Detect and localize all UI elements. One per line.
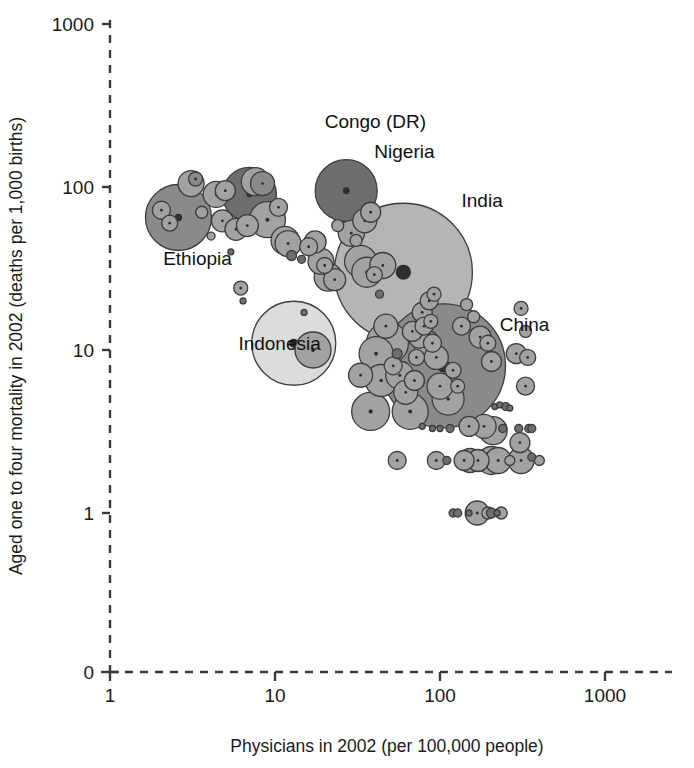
x-tick-label: 1000 [584, 685, 626, 706]
bubble-center-dot [439, 385, 442, 388]
data-bubble [196, 206, 208, 218]
bubble-center-dot [369, 211, 372, 214]
y-tick-label: 1 [83, 503, 94, 524]
data-bubble [392, 349, 402, 359]
bubble-center-dot [221, 219, 224, 222]
data-bubble [528, 453, 536, 461]
data-bubble [443, 456, 451, 464]
data-bubble [240, 298, 246, 304]
data-bubble [376, 290, 384, 298]
bubble-center-dot [287, 242, 290, 245]
bubble-center-dot [413, 379, 416, 382]
bubble-center-dot [463, 459, 466, 462]
bubble-center-dot [398, 374, 401, 377]
data-bubble [468, 311, 480, 323]
bubble-center-dot [497, 459, 500, 462]
bubble-center-dot [408, 409, 412, 413]
bubble-center-dot [456, 385, 459, 388]
bubble-center-dot [396, 265, 411, 280]
bubble-center-dot [160, 209, 163, 212]
bubble-center-dot [452, 369, 455, 372]
y-axis-title: Aged one to four mortality in 2002 (deat… [6, 117, 26, 575]
bubble-center-dot [404, 391, 407, 394]
data-bubble [298, 255, 306, 263]
chart-svg: 110100100001101001000 Congo (DR)NigeriaI… [0, 0, 694, 768]
data-bubble [528, 424, 536, 432]
data-bubble [454, 509, 462, 517]
bubble-center-dot [261, 182, 264, 185]
bubble-center-dot [323, 264, 326, 267]
bubble-center-dot [431, 342, 434, 345]
country-label: Indonesia [238, 333, 321, 354]
bubble-center-dot [265, 218, 269, 222]
bubble-center-dot [519, 441, 522, 444]
bubble-center-dot [460, 325, 463, 328]
bubble-center-dot [277, 206, 280, 209]
data-bubble [494, 510, 500, 516]
bubble-center-dot [526, 356, 529, 359]
y-tick-label: 10 [73, 340, 94, 361]
country-label: Ethiopia [163, 248, 232, 269]
country-label: Nigeria [374, 141, 435, 162]
bubble-center-dot [524, 385, 527, 388]
bubble-center-dot [373, 273, 376, 276]
bubble-center-dot [476, 512, 479, 515]
y-tick-label: 1000 [52, 14, 94, 35]
bubble-center-dot [520, 307, 523, 310]
bubble-center-dot [374, 352, 378, 356]
bubble-center-dot [415, 356, 418, 359]
bubble-center-dot [343, 187, 350, 194]
bubble-center-dot [435, 356, 438, 359]
x-tick-label: 100 [424, 685, 456, 706]
bubble-center-dot [194, 178, 197, 181]
data-bubble [287, 250, 297, 260]
data-bubble [466, 510, 472, 516]
data-bubble [507, 405, 513, 411]
data-bubble [207, 232, 215, 240]
data-bubble [419, 423, 425, 429]
country-label: India [462, 190, 504, 211]
data-bubble [497, 402, 503, 408]
bubble-center-dot [421, 311, 424, 314]
data-bubble [332, 220, 344, 232]
bubble-center-dot [515, 352, 518, 355]
x-tick-label: 10 [264, 685, 285, 706]
bubble-chart-figure: 110100100001101001000 Congo (DR)NigeriaI… [0, 0, 694, 768]
bubble-center-dot [224, 189, 227, 192]
data-bubble [446, 424, 454, 432]
bubble-center-dot [384, 325, 387, 328]
y-origin-label: 0 [83, 662, 94, 683]
bubble-center-dot [433, 293, 436, 296]
data-bubble [301, 309, 307, 315]
data-bubble [505, 455, 515, 465]
bubble-center-dot [435, 459, 438, 462]
bubble-center-dot [359, 374, 362, 377]
x-tick-label: 1 [105, 685, 116, 706]
bubble-center-dot [520, 459, 523, 462]
bubble-center-dot [392, 364, 395, 367]
bubble-center-dot [239, 287, 242, 290]
data-bubble [499, 424, 507, 432]
data-bubble [437, 425, 443, 431]
x-axis-title: Physicians in 2002 (per 100,000 people) [230, 736, 543, 756]
bubble-center-dot [333, 278, 336, 281]
country-label: China [500, 314, 550, 335]
bubble-center-dot [490, 360, 493, 363]
bubble-center-dot [168, 222, 171, 225]
bubble-center-dot [307, 245, 310, 248]
data-bubble [429, 425, 435, 431]
bubble-center-dot [381, 264, 384, 267]
bubble-center-dot [411, 330, 414, 333]
bubble-center-dot [468, 425, 471, 428]
bubbles-group [145, 160, 544, 525]
bubble-center-dot [369, 409, 373, 413]
bubble-center-dot [246, 224, 249, 227]
country-label: Congo (DR) [325, 111, 426, 132]
bubble-center-dot [379, 379, 383, 383]
bubble-center-dot [396, 459, 399, 462]
data-bubble [350, 234, 362, 246]
bubble-center-dot [350, 232, 353, 235]
bubble-center-dot [477, 459, 480, 462]
data-bubble [461, 299, 473, 311]
bubble-center-dot [429, 320, 432, 323]
